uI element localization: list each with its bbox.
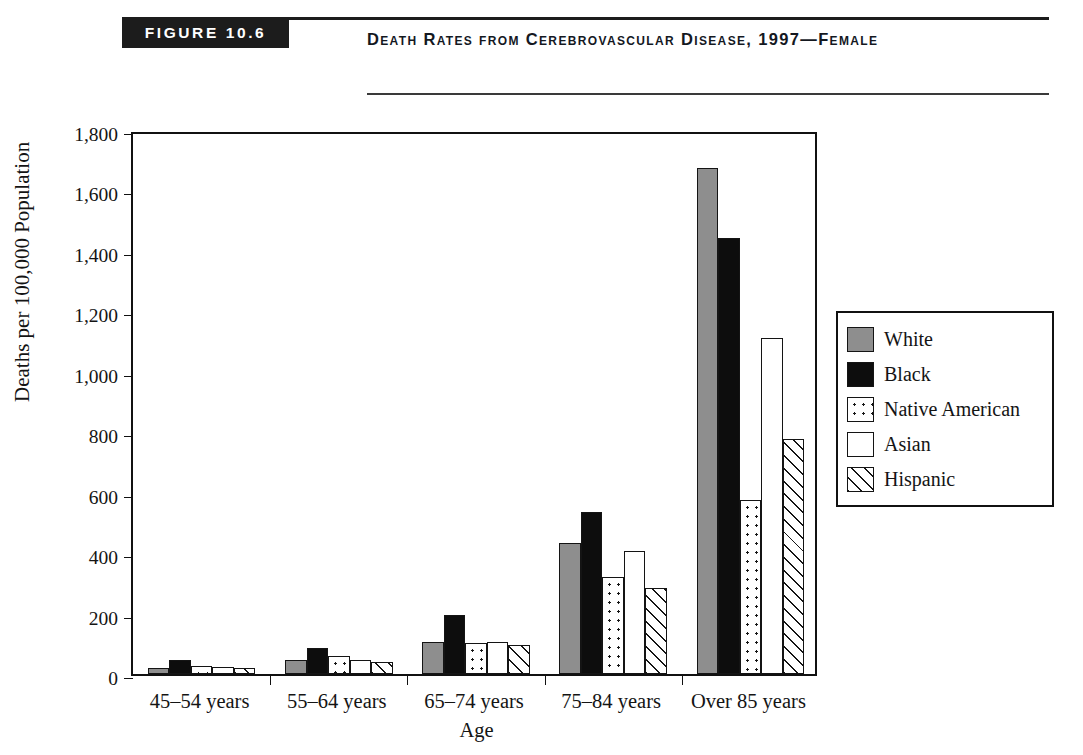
- y-axis-tick-label: 200: [89, 607, 118, 629]
- y-axis-tick: 600: [124, 497, 133, 498]
- x-axis-category-label: 65–74 years: [405, 690, 542, 713]
- bar: [350, 660, 372, 674]
- figure-number-badge: FIGURE 10.6: [122, 17, 289, 48]
- y-axis-tick: 800: [124, 436, 133, 437]
- legend-item-label: Hispanic: [884, 468, 955, 491]
- bar: [465, 643, 487, 674]
- bar: [422, 642, 444, 674]
- legend-swatch-icon: [847, 432, 874, 457]
- bar: [169, 660, 191, 674]
- figure-header: FIGURE 10.6 Death Rates from Cerebrovasc…: [0, 0, 1083, 110]
- legend-swatch-icon: [847, 397, 874, 422]
- x-axis-title: Age: [0, 719, 1083, 742]
- figure-number-label: FIGURE 10.6: [145, 24, 267, 42]
- plot-area: 02004006008001,0001,2001,4001,6001,800: [131, 132, 817, 676]
- y-axis-tick: 400: [124, 557, 133, 558]
- header-rule-top: [289, 17, 1049, 20]
- x-axis-tick: [545, 674, 546, 685]
- x-axis-title-label: Age: [459, 719, 493, 742]
- bar: [697, 168, 719, 674]
- bar: [718, 238, 740, 674]
- legend-swatch-icon: [847, 362, 874, 387]
- bar: [581, 512, 603, 674]
- bar: [761, 338, 783, 674]
- legend-item-label: Black: [884, 363, 931, 386]
- legend-item-label: White: [884, 328, 933, 351]
- bar: [487, 642, 509, 674]
- bar: [285, 660, 307, 674]
- legend-item-label: Native American: [884, 398, 1020, 421]
- y-axis-tick: 1,000: [124, 376, 133, 377]
- bar: [559, 543, 581, 674]
- x-axis-tick: [407, 674, 408, 685]
- page-title: Death Rates from Cerebrovascular Disease…: [367, 26, 1057, 52]
- legend-item-label: Asian: [884, 433, 931, 456]
- bar: [234, 668, 256, 674]
- y-axis-tick-label: 1,600: [74, 184, 118, 206]
- y-axis-tick: 200: [124, 618, 133, 619]
- y-axis-tick: 0: [124, 678, 133, 679]
- bar: [191, 666, 213, 674]
- y-axis-tick-label: 600: [89, 486, 118, 508]
- x-axis-category-label: Over 85 years: [680, 690, 817, 713]
- bar: [508, 645, 530, 674]
- y-axis-tick: 1,200: [124, 315, 133, 316]
- bar: [328, 656, 350, 674]
- bar: [783, 439, 805, 674]
- y-axis-tick-label: 1,200: [74, 305, 118, 327]
- legend-item: Asian: [847, 427, 1044, 462]
- legend-swatch-icon: [847, 467, 874, 492]
- x-axis-tick: [270, 674, 271, 685]
- x-axis-tick: [682, 674, 683, 685]
- y-axis-tick: 1,400: [124, 255, 133, 256]
- bar: [307, 648, 329, 674]
- bar: [148, 668, 170, 674]
- y-axis-tick: 1,600: [124, 194, 133, 195]
- chart-legend: WhiteBlackNative AmericanAsianHispanic: [836, 311, 1054, 507]
- header-rule-bottom: [367, 93, 1049, 95]
- bar: [444, 615, 466, 674]
- legend-item: Hispanic: [847, 462, 1044, 497]
- y-axis-tick-label: 1,400: [74, 244, 118, 266]
- y-axis-title: Deaths per 100,000 Population: [10, 142, 35, 402]
- y-axis-tick-label: 400: [89, 547, 118, 569]
- y-axis-tick-label: 800: [89, 426, 118, 448]
- x-axis-category-label: 45–54 years: [131, 690, 268, 713]
- y-axis-tick: 1,800: [124, 134, 133, 135]
- y-axis-tick-label: 1,000: [74, 365, 118, 387]
- bar: [602, 577, 624, 674]
- bar: [645, 588, 667, 674]
- bar: [740, 500, 762, 674]
- x-axis-category-label: 75–84 years: [543, 690, 680, 713]
- y-axis-tick-label: 0: [108, 668, 118, 690]
- legend-item: White: [847, 322, 1044, 357]
- x-axis-category-label: 55–64 years: [268, 690, 405, 713]
- legend-swatch-icon: [847, 327, 874, 352]
- legend-item: Native American: [847, 392, 1044, 427]
- y-axis-tick-label: 1,800: [74, 124, 118, 146]
- bar: [371, 662, 393, 674]
- bar: [624, 551, 646, 674]
- legend-item: Black: [847, 357, 1044, 392]
- bar: [212, 667, 234, 674]
